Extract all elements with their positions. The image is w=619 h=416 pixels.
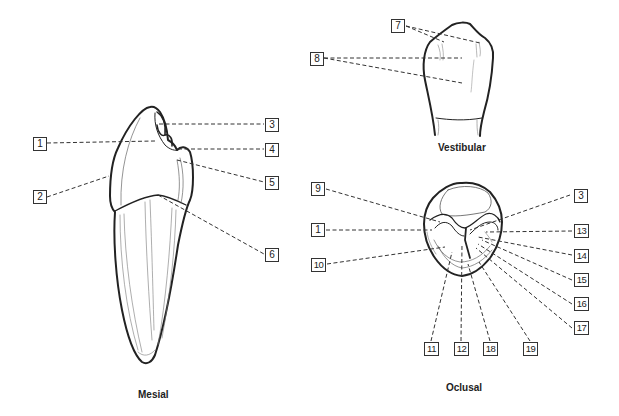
mesial-label-5: 5 bbox=[265, 176, 279, 190]
caption-vestibular: Vestibular bbox=[438, 142, 486, 153]
oclusal-leader-lines bbox=[326, 189, 572, 341]
oclusal-label-19: 19 bbox=[523, 342, 538, 356]
vestibular-label-8: 8 bbox=[310, 52, 324, 66]
vestibular-label-7: 7 bbox=[391, 19, 405, 33]
oclusal-label-1: 1 bbox=[311, 223, 325, 237]
vestibular-tooth-drawing bbox=[424, 23, 494, 136]
mesial-label-4: 4 bbox=[265, 143, 279, 157]
oclusal-label-12: 12 bbox=[454, 342, 469, 356]
mesial-leader-lines bbox=[47, 124, 264, 254]
mesial-label-1: 1 bbox=[33, 137, 47, 151]
mesial-label-6: 6 bbox=[265, 248, 279, 262]
oclusal-label-15: 15 bbox=[574, 273, 589, 287]
vestibular-leader-lines bbox=[324, 26, 480, 83]
mesial-label-2: 2 bbox=[33, 190, 47, 204]
oclusal-label-13: 13 bbox=[574, 224, 589, 238]
oclusal-label-3: 3 bbox=[574, 189, 588, 203]
caption-mesial: Mesial bbox=[138, 389, 169, 400]
oclusal-label-18: 18 bbox=[483, 342, 498, 356]
mesial-tooth-drawing bbox=[110, 107, 193, 363]
oclusal-label-16: 16 bbox=[574, 297, 589, 311]
mesial-label-3: 3 bbox=[265, 118, 279, 132]
oclusal-label-9: 9 bbox=[311, 182, 325, 196]
oclusal-tooth-drawing bbox=[424, 183, 502, 276]
oclusal-label-10: 10 bbox=[311, 258, 326, 272]
caption-oclusal: Oclusal bbox=[446, 382, 482, 393]
oclusal-label-17: 17 bbox=[574, 321, 589, 335]
oclusal-label-14: 14 bbox=[574, 249, 589, 263]
oclusal-label-11: 11 bbox=[424, 342, 439, 356]
